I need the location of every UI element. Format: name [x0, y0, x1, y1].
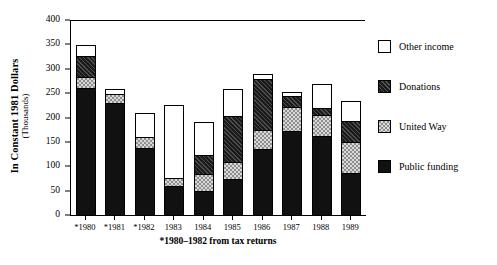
bar-segment-united	[223, 162, 243, 180]
x-axis-label: *1981	[104, 222, 125, 232]
y-axis-label: 0	[0, 210, 60, 220]
x-axis-label: 1989	[342, 222, 359, 232]
y-axis-tick	[65, 215, 70, 216]
y-axis-tick	[65, 44, 70, 45]
y-axis-label: 100	[0, 162, 60, 172]
bar-1988	[312, 84, 332, 215]
bar-segment-public	[76, 88, 96, 216]
bar-segment-public	[282, 131, 302, 216]
legend-label: Public funding	[399, 161, 458, 172]
bar-1986	[253, 74, 273, 215]
y-axis-label: 200	[0, 113, 60, 123]
y-axis-label: 150	[0, 137, 60, 147]
y-axis-tick	[65, 93, 70, 94]
bar-segment-donations	[194, 155, 214, 175]
legend-swatch-united	[378, 120, 391, 133]
bar-segment-other	[135, 113, 155, 138]
x-axis-label: 1984	[194, 222, 211, 232]
bar-group	[71, 21, 365, 215]
x-axis-tick	[144, 215, 145, 220]
y-axis-tick	[65, 166, 70, 167]
legend-label: Other income	[399, 41, 454, 52]
x-axis-tick	[291, 215, 292, 220]
bar-1982	[135, 113, 155, 215]
x-axis-tick	[262, 215, 263, 220]
legend-item-donations[interactable]: Donations	[378, 80, 493, 93]
bar-segment-united	[312, 115, 332, 137]
y-axis-label: 400	[0, 15, 60, 25]
y-axis-label: 50	[0, 186, 60, 196]
bar-segment-donations	[76, 56, 96, 78]
x-axis-tick	[321, 215, 322, 220]
legend-swatch-other	[378, 40, 391, 53]
legend-swatch-public	[378, 160, 391, 173]
x-axis-tick	[232, 215, 233, 220]
bar-segment-donations	[223, 116, 243, 163]
bar-segment-public	[341, 173, 361, 216]
y-axis-label: 350	[0, 40, 60, 50]
bar-segment-public	[135, 148, 155, 216]
x-axis-tick	[85, 215, 86, 220]
x-axis-label: 1985	[224, 222, 241, 232]
x-axis-tick	[350, 215, 351, 220]
x-axis-label: 1987	[283, 222, 300, 232]
legend-label: United Way	[399, 121, 447, 132]
bar-segment-united	[282, 107, 302, 132]
bar-segment-united	[194, 174, 214, 192]
legend-item-other[interactable]: Other income	[378, 40, 493, 53]
x-axis-tick	[203, 215, 204, 220]
bar-1981	[105, 89, 125, 215]
x-axis-label: *1982	[133, 222, 154, 232]
y-axis-tick	[65, 190, 70, 191]
chart-legend: Other incomeDonationsUnited WayPublic fu…	[378, 40, 493, 200]
y-axis-tick	[65, 68, 70, 69]
x-axis-label: *1980	[74, 222, 95, 232]
bar-segment-united	[341, 142, 361, 174]
bar-segment-public	[194, 191, 214, 216]
bar-1985	[223, 89, 243, 215]
legend-item-public[interactable]: Public funding	[378, 160, 493, 173]
y-axis-label: 250	[0, 88, 60, 98]
y-axis-label: 300	[0, 64, 60, 74]
legend-swatch-donations	[378, 80, 391, 93]
bar-segment-public	[164, 186, 184, 216]
legend-label: Donations	[399, 81, 440, 92]
bar-1984	[194, 122, 214, 215]
bar-segment-other	[312, 84, 332, 109]
bar-segment-other	[341, 101, 361, 122]
bar-segment-public	[223, 179, 243, 216]
y-axis-tick	[65, 117, 70, 118]
x-axis-label: 1988	[312, 222, 329, 232]
legend-item-united[interactable]: United Way	[378, 120, 493, 133]
bar-segment-other	[223, 89, 243, 117]
chart-footnote: *1980–1982 from tax returns	[70, 236, 366, 246]
x-axis-tick	[114, 215, 115, 220]
plot-area	[70, 20, 365, 215]
x-axis-tick	[173, 215, 174, 220]
stacked-bar-chart: In Constant 1981 Dollars (Thousands) 050…	[0, 0, 497, 265]
bar-1983	[164, 105, 184, 215]
bar-segment-other	[164, 105, 184, 179]
bar-segment-public	[105, 103, 125, 216]
x-axis-label: 1986	[253, 222, 270, 232]
bar-1989	[341, 101, 361, 215]
y-axis-tick	[65, 141, 70, 142]
bar-1987	[282, 92, 302, 215]
bar-segment-public	[253, 149, 273, 216]
bar-segment-donations	[341, 121, 361, 143]
y-axis-tick	[65, 20, 70, 21]
bar-segment-other	[194, 122, 214, 156]
bar-1980	[76, 45, 96, 215]
bar-segment-united	[253, 130, 273, 150]
bar-segment-donations	[253, 79, 273, 131]
x-axis-label: 1983	[165, 222, 182, 232]
bar-segment-public	[312, 136, 332, 216]
